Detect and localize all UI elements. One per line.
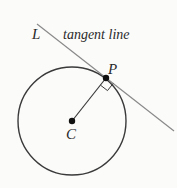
point-c bbox=[69, 118, 75, 124]
label-c: C bbox=[66, 126, 77, 142]
label-tangent-line: tangent line bbox=[63, 27, 130, 42]
tangent-diagram: L tangent line P C bbox=[0, 0, 177, 188]
label-p: P bbox=[107, 61, 117, 77]
radius-segment bbox=[72, 78, 106, 121]
label-l: L bbox=[31, 26, 40, 42]
